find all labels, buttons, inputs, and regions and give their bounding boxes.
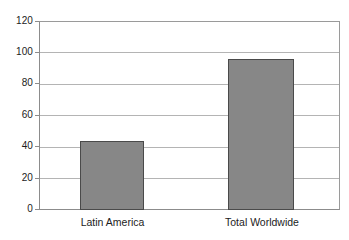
- bar-chart: 120 100 80 60 40 20 0 Latin America Tota…: [0, 0, 349, 240]
- gridline: [40, 52, 339, 53]
- bar-total-worldwide[interactable]: [228, 59, 294, 210]
- y-axis-tick-label: 100: [3, 47, 33, 57]
- x-axis-label-total-worldwide: Total Worldwide: [203, 216, 321, 228]
- gridline: [40, 84, 339, 85]
- y-axis-tick-label: 120: [3, 16, 33, 26]
- x-axis-label-latin-america: Latin America: [55, 216, 170, 228]
- plot-area: [39, 21, 340, 210]
- bar-latin-america[interactable]: [80, 141, 144, 210]
- y-axis-tick-label: 20: [3, 173, 33, 183]
- y-axis-tick-label: 0: [3, 204, 33, 214]
- y-axis-tick-label: 40: [3, 141, 33, 151]
- y-axis-tick-label: 60: [3, 110, 33, 120]
- y-axis: 120 100 80 60 40 20 0: [0, 0, 33, 240]
- y-axis-tick-label: 80: [3, 78, 33, 88]
- gridline: [40, 115, 339, 116]
